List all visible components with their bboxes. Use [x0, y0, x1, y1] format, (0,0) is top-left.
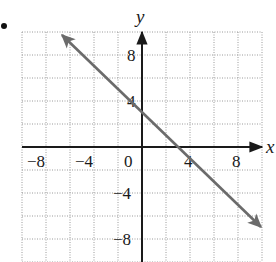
- coordinate-plane: x y −8 −4 0 4 8 8 4 −4 −8: [0, 0, 276, 262]
- origin-label: 0: [124, 152, 133, 171]
- x-axis-label: x: [265, 136, 275, 157]
- x-tick-label: −4: [75, 152, 94, 171]
- plotted-line: [62, 35, 261, 227]
- y-tick-label: 8: [127, 46, 136, 65]
- x-tick-label: −8: [27, 152, 45, 171]
- y-tick-label: −8: [113, 230, 131, 249]
- x-tick-label: 8: [232, 152, 241, 171]
- y-axis-label: y: [134, 6, 145, 27]
- y-tick-label: −4: [113, 184, 132, 203]
